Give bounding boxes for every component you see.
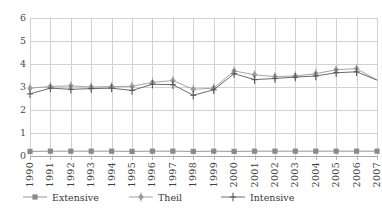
y-tick-label: 3	[20, 82, 26, 92]
series-line	[30, 72, 377, 95]
square-marker	[232, 149, 237, 154]
x-tick-mark	[275, 156, 276, 160]
y-tick-label: 5	[20, 36, 26, 46]
x-tick-mark	[50, 156, 51, 160]
chart-legend: ExtensiveTheilIntensive	[0, 189, 382, 205]
diamond-marker-icon	[128, 191, 154, 203]
square-marker	[89, 149, 94, 154]
y-tick-label: 6	[20, 13, 26, 23]
gridline-vertical	[377, 18, 378, 156]
x-tick-mark	[214, 156, 215, 160]
x-tick-label: 2001	[250, 162, 260, 187]
plus-marker	[190, 91, 196, 99]
y-axis: 0123456	[0, 0, 30, 156]
x-tick-label: 1996	[147, 162, 157, 187]
x-tick-mark	[152, 156, 153, 160]
square-marker	[334, 149, 339, 154]
x-tick-mark	[193, 156, 194, 160]
x-tick-mark	[316, 156, 317, 160]
x-tick-mark	[336, 156, 337, 160]
x-tick-label: 2005	[331, 162, 341, 187]
x-tick-label: 2006	[352, 162, 362, 187]
y-tick-label: 1	[20, 128, 26, 138]
series-line	[30, 69, 377, 90]
plus-marker	[149, 80, 155, 88]
diamond-marker	[139, 192, 144, 201]
square-marker	[48, 149, 53, 154]
y-tick-label: 0	[20, 151, 26, 161]
x-tick-mark	[255, 156, 256, 160]
legend-label: Extensive	[52, 192, 99, 203]
x-tick-label: 1994	[107, 162, 117, 187]
square-marker	[32, 194, 37, 199]
plus-marker	[109, 84, 115, 92]
square-marker	[191, 149, 196, 154]
legend-item-intensive[interactable]: Intensive	[220, 191, 294, 203]
plus-marker	[47, 84, 53, 92]
x-tick-mark	[377, 156, 378, 160]
x-tick-label: 1997	[168, 162, 178, 187]
plus-marker	[88, 84, 94, 92]
legend-item-theil[interactable]: Theil	[128, 191, 182, 203]
square-marker-icon	[22, 191, 48, 203]
x-axis: 1990199119921993199419951996199719981999…	[30, 156, 377, 188]
square-marker	[354, 149, 359, 154]
square-marker	[252, 149, 257, 154]
square-marker	[27, 149, 32, 154]
y-tick-label: 2	[20, 105, 26, 115]
x-tick-label: 1998	[188, 162, 198, 187]
square-marker	[293, 149, 298, 154]
x-tick-mark	[30, 156, 31, 160]
plus-marker	[129, 86, 135, 94]
x-tick-mark	[295, 156, 296, 160]
x-tick-label: 1999	[209, 162, 219, 187]
x-tick-label: 2002	[270, 162, 280, 187]
plus-marker	[252, 75, 258, 83]
series-layer	[30, 18, 377, 156]
plus-marker	[292, 73, 298, 81]
square-marker	[150, 149, 155, 154]
square-marker	[272, 149, 277, 154]
x-tick-label: 1993	[86, 162, 96, 187]
series-extensive	[27, 149, 379, 154]
square-marker	[313, 149, 318, 154]
x-tick-label: 1991	[45, 162, 55, 187]
x-tick-label: 1992	[66, 162, 76, 187]
x-tick-label: 2003	[290, 162, 300, 187]
legend-item-extensive[interactable]: Extensive	[22, 191, 99, 203]
square-marker	[211, 149, 216, 154]
x-tick-label: 2007	[372, 162, 382, 187]
line-chart: 0123456 19901991199219931994199519961997…	[0, 0, 382, 208]
legend-label: Intensive	[250, 192, 294, 203]
x-tick-mark	[357, 156, 358, 160]
x-tick-label: 1990	[25, 162, 35, 187]
plus-marker	[230, 193, 236, 201]
x-tick-label: 2000	[229, 162, 239, 187]
square-marker	[109, 149, 114, 154]
square-marker	[170, 149, 175, 154]
x-tick-mark	[234, 156, 235, 160]
x-tick-mark	[112, 156, 113, 160]
x-tick-label: 1995	[127, 162, 137, 187]
x-tick-mark	[173, 156, 174, 160]
square-marker	[374, 149, 379, 154]
plus-marker-icon	[220, 191, 246, 203]
x-tick-label: 2004	[311, 162, 321, 187]
x-tick-mark	[132, 156, 133, 160]
plus-marker	[272, 74, 278, 82]
y-tick-label: 4	[20, 59, 26, 69]
square-marker	[68, 149, 73, 154]
x-tick-mark	[91, 156, 92, 160]
x-tick-mark	[71, 156, 72, 160]
square-marker	[129, 149, 134, 154]
legend-label: Theil	[158, 192, 182, 203]
plot-area	[30, 18, 377, 156]
